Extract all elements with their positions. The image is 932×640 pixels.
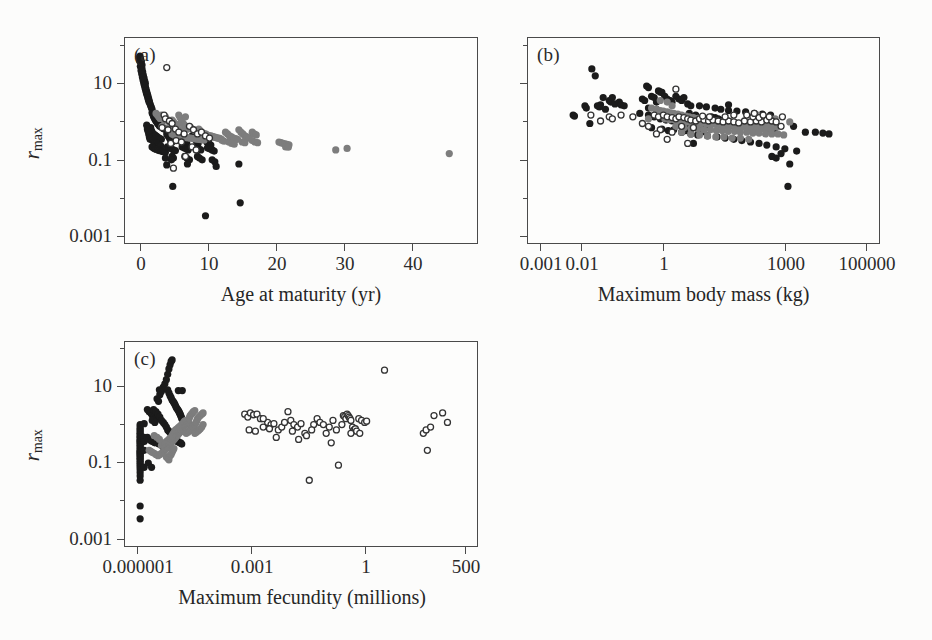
panel-c-ytick-minor-1 (120, 424, 124, 425)
panel-c-xtick-3 (465, 547, 466, 554)
data-point (323, 430, 329, 436)
data-point (191, 407, 198, 414)
panel-c-xtick-label-3: 500 (452, 556, 481, 578)
data-point (137, 477, 144, 484)
data-point (157, 389, 164, 396)
data-point (155, 398, 162, 405)
data-point (330, 417, 336, 423)
panel-c-ytick-label-0: 10 (66, 375, 112, 397)
data-point (348, 430, 354, 436)
data-point (170, 445, 177, 452)
data-point (339, 422, 345, 428)
data-point (357, 430, 363, 436)
panel-c-xtick-2 (365, 547, 366, 554)
panel-c-ytick-label-2: 0.001 (32, 528, 112, 550)
panel-c-yaxis-title: rmax (20, 405, 46, 485)
panel-c-ytick-minor-0 (120, 348, 124, 349)
panel-c-ytick-major-2 (117, 539, 124, 540)
figure-container: (a) 10 0.1 0.001 0 10 20 30 40 Age at ma… (0, 0, 932, 640)
data-point (364, 418, 370, 424)
data-point (431, 413, 437, 419)
data-point (199, 409, 206, 416)
data-point (141, 420, 148, 427)
data-point (382, 367, 388, 373)
data-point (199, 421, 206, 428)
data-point (282, 419, 288, 425)
data-point (137, 515, 144, 522)
data-point (137, 502, 144, 509)
panel-c-xtick-0 (137, 547, 138, 554)
data-point (179, 387, 186, 394)
data-point (266, 426, 272, 432)
data-point (271, 421, 277, 427)
data-point (428, 424, 434, 430)
data-point (303, 433, 309, 439)
data-point (306, 477, 312, 483)
data-point (260, 416, 266, 422)
data-point (309, 427, 315, 433)
panel-c-xtick-label-1: 0.001 (231, 556, 274, 578)
data-point (320, 422, 326, 428)
data-point (178, 440, 185, 447)
panel-c-tag: (c) (134, 348, 156, 370)
panel-c-ytick-minor-2 (120, 500, 124, 501)
panel-c-ytick-major-1 (117, 462, 124, 463)
data-point (440, 410, 446, 416)
data-point (151, 432, 158, 439)
panel-c-scatter-points (0, 0, 932, 640)
data-point (246, 427, 252, 433)
panel-c-xtick-label-2: 1 (361, 556, 371, 578)
panel-c-xtick-label-0: 0.000001 (102, 556, 173, 578)
data-point (252, 428, 258, 434)
data-point (444, 419, 450, 425)
data-point (169, 356, 176, 363)
data-point (285, 409, 291, 415)
data-point (424, 447, 430, 453)
data-point (296, 436, 302, 442)
data-point (335, 462, 341, 468)
panel-c-ytick-label-1: 0.1 (58, 451, 112, 473)
panel-c-xtick-1 (251, 547, 252, 554)
panel-c-xaxis-title: Maximum fecundity (millions) (110, 586, 494, 609)
data-point (273, 434, 279, 440)
panel-c-yaxis-symbol: rmax (20, 429, 44, 461)
data-point (326, 424, 332, 430)
data-point (289, 428, 295, 434)
data-point (151, 419, 158, 426)
panel-c-ytick-major-0 (117, 386, 124, 387)
data-point (298, 421, 304, 427)
data-point (328, 440, 334, 446)
data-point (148, 464, 155, 471)
data-point (333, 427, 339, 433)
data-point (348, 417, 354, 423)
